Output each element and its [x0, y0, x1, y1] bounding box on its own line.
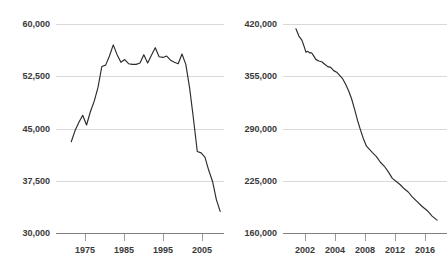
x-tick-label-0: 2002 [295, 245, 315, 255]
x-tick-label-1: 2004 [325, 245, 345, 255]
y-tick-label-4: 420,000 [244, 19, 277, 29]
chart-panel-left: 30,00037,50045,00052,50060,000 197519851… [0, 0, 224, 275]
left-data-series-line [71, 45, 220, 212]
right-gridlines [283, 25, 447, 182]
y-tick-label-0: 160,000 [244, 228, 277, 238]
y-tick-label-0: 30,000 [22, 228, 50, 238]
left-gridlines [56, 25, 224, 182]
left-xtick-labels: 19751985199520052015 [75, 245, 224, 255]
right-xtick-labels: 20022004200820122016 [295, 245, 435, 255]
left-chart-svg: 30,00037,50045,00052,50060,000 197519851… [0, 0, 224, 275]
y-tick-label-2: 290,000 [244, 124, 277, 134]
right-chart-svg: 160,000225,000290,000355,000420,000 2002… [223, 0, 447, 275]
y-tick-label-3: 52,500 [22, 71, 50, 81]
dual-line-chart-figure: 30,00037,50045,00052,50060,000 197519851… [0, 0, 447, 275]
y-tick-label-2: 45,000 [22, 124, 50, 134]
right-data-series-line [296, 29, 437, 220]
chart-panel-right: 160,000225,000290,000355,000420,000 2002… [223, 0, 447, 275]
x-tick-label-3: 2005 [192, 245, 212, 255]
x-tick-label-0: 1975 [75, 245, 95, 255]
left-ytick-labels: 30,00037,50045,00052,50060,000 [22, 19, 50, 238]
y-tick-label-3: 355,000 [244, 71, 277, 81]
x-tick-label-1: 1985 [114, 245, 134, 255]
right-ticks [306, 234, 426, 241]
y-tick-label-1: 37,500 [22, 176, 50, 186]
x-tick-label-2: 2008 [355, 245, 375, 255]
right-ytick-labels: 160,000225,000290,000355,000420,000 [244, 19, 277, 238]
y-tick-label-1: 225,000 [244, 176, 277, 186]
y-tick-label-4: 60,000 [22, 19, 50, 29]
x-tick-label-3: 2012 [385, 245, 405, 255]
left-ticks [86, 234, 225, 241]
x-tick-label-4: 2016 [415, 245, 435, 255]
x-tick-label-2: 1995 [153, 245, 173, 255]
